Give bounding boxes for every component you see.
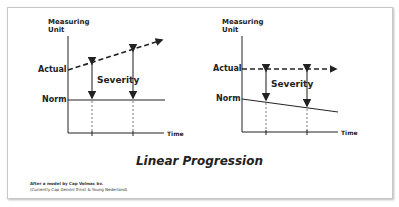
left-y-axis-label-2: Unit — [48, 26, 64, 34]
diagram-title: Linear Progression — [0, 154, 399, 168]
left-actual-label: Actual — [38, 65, 67, 74]
right-norm-line — [242, 99, 338, 112]
right-y-axis-label-2: Unit — [222, 26, 238, 34]
left-y-axis-label-1: Measuring — [48, 18, 89, 26]
left-chart — [68, 36, 165, 136]
left-severity-label: Severity — [97, 75, 139, 85]
left-norm-label: Norm — [42, 95, 66, 104]
right-y-axis-label-1: Measuring — [222, 18, 263, 26]
credit-line-2: (Currently Cap Gemini Ernst & Young Nede… — [30, 187, 127, 192]
right-norm-label: Norm — [216, 94, 240, 103]
right-actual-label: Actual — [213, 64, 242, 73]
credit-line-1: After a model by Cap Volmac bv. — [30, 181, 103, 186]
left-time-label: Time — [167, 130, 183, 137]
right-severity-label: Severity — [271, 79, 313, 89]
left-actual-dashed-arrow — [68, 40, 162, 70]
right-time-label: Time — [341, 129, 357, 136]
